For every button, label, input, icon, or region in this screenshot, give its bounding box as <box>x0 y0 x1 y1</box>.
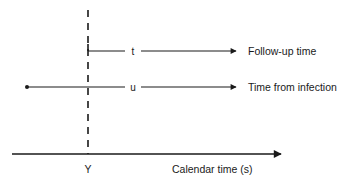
follow-up-marker-t: t <box>132 46 135 57</box>
timeline-diagram: t Follow-up time u Time from infection Y… <box>0 0 357 186</box>
axis-label: Calendar time (s) <box>172 163 253 175</box>
axis-tick-y: Y <box>84 163 91 175</box>
infection-marker-u: u <box>130 82 136 93</box>
calendar-time-axis: Y Calendar time (s) <box>12 154 281 175</box>
follow-up-label: Follow-up time <box>248 45 316 57</box>
follow-up-line: t Follow-up time <box>88 44 316 57</box>
infection-label: Time from infection <box>248 81 337 93</box>
infection-line: u Time from infection <box>25 81 337 93</box>
